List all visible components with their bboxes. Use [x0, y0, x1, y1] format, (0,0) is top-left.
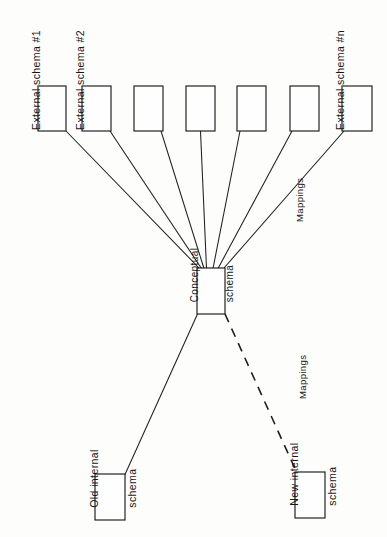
label-conceptual-schema-line1: Conceptual — [189, 248, 200, 303]
label-external-schema-n: External schema #n — [334, 30, 346, 130]
box-external-schema-5[interactable] — [237, 86, 266, 131]
label-new-internal-schema: New internal schema — [276, 443, 350, 519]
label-conceptual-schema: Conceptual schema — [177, 248, 248, 315]
label-external-schema-2: External schema #2 — [74, 30, 86, 130]
label-new-internal-line2: schema — [326, 467, 338, 506]
label-new-internal-line1: New internal — [288, 443, 300, 506]
box-external-schema-6[interactable] — [290, 86, 319, 131]
label-old-internal-line2: schema — [126, 469, 138, 508]
label-old-internal-schema: Old internal schema — [76, 449, 150, 521]
box-external-schema-n[interactable] — [342, 86, 372, 131]
label-mappings-lower: Mappings — [297, 355, 308, 399]
label-external-schema-1: External schema #1 — [30, 30, 42, 130]
label-mappings-upper: Mappings — [294, 178, 305, 222]
box-external-schema-4[interactable] — [186, 86, 215, 131]
box-external-schema-3[interactable] — [134, 86, 163, 131]
diagram-canvas: External schema #1 External schema #2 Ex… — [0, 0, 387, 537]
label-conceptual-schema-line2: schema — [224, 265, 235, 302]
external-schema-boxes — [38, 86, 372, 131]
connector-group-internal — [125, 314, 297, 475]
label-old-internal-line1: Old internal — [88, 449, 100, 508]
